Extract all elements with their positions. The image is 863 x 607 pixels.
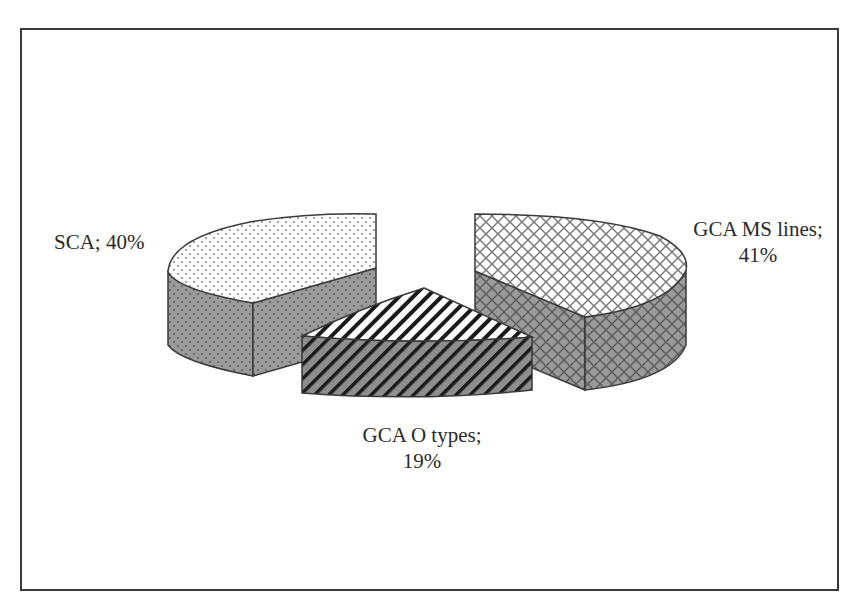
data-label-sca-name: SCA; xyxy=(54,230,101,254)
data-label-sca: SCA; 40% xyxy=(54,229,144,255)
data-label-gca-ms-pct: 41% xyxy=(672,242,844,268)
data-label-gca-o-pct: 19% xyxy=(322,448,522,474)
data-label-gca-o-name: GCA O types; xyxy=(322,422,522,448)
data-label-sca-pct: 40% xyxy=(106,230,145,254)
pie-chart-3d xyxy=(0,0,863,607)
data-label-gca-ms-name: GCA MS lines; xyxy=(672,216,844,242)
slice-gca-o-side xyxy=(302,336,532,397)
data-label-gca-o: GCA O types; 19% xyxy=(322,422,522,474)
data-label-gca-ms: GCA MS lines; 41% xyxy=(672,216,844,268)
